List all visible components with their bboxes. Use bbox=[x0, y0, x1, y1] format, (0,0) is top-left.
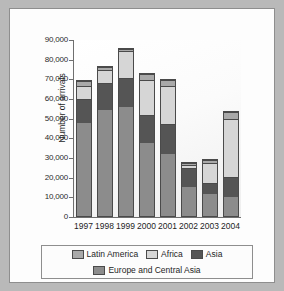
legend-item[interactable]: Africa bbox=[146, 249, 183, 259]
y-tick-mark bbox=[69, 138, 73, 139]
bar-segment bbox=[224, 112, 238, 119]
y-axis-tick-labels: 90,00080,00070,00060,00050,00040,00030,0… bbox=[8, 40, 68, 218]
x-axis-line bbox=[73, 217, 241, 218]
x-axis-tick-labels: 19971998199920002001200220032004 bbox=[73, 221, 241, 235]
x-tick-label-2004: 2004 bbox=[216, 221, 246, 231]
bar-segment bbox=[161, 154, 175, 216]
bar-2001[interactable] bbox=[160, 79, 176, 217]
plot-area bbox=[73, 40, 241, 218]
bar-segment bbox=[119, 107, 133, 216]
legend-swatch-icon bbox=[191, 250, 203, 259]
y-tick-mark bbox=[69, 217, 73, 218]
bar-1997[interactable] bbox=[76, 80, 92, 217]
bar-segment bbox=[140, 143, 154, 216]
legend-swatch-icon bbox=[93, 266, 105, 275]
bar-segment bbox=[140, 115, 154, 144]
bar-2000[interactable] bbox=[139, 73, 155, 217]
legend-item[interactable]: Europe and Central Asia bbox=[93, 265, 200, 275]
y-tick-label: 50,000 bbox=[45, 115, 68, 123]
bar-segment bbox=[98, 110, 112, 216]
bar-1999[interactable] bbox=[118, 48, 134, 217]
y-tick-mark bbox=[69, 79, 73, 80]
y-tick-label: 30,000 bbox=[45, 154, 68, 162]
bar-segment bbox=[203, 194, 217, 216]
chart-frame: Number of arrivals 90,00080,00070,00060,… bbox=[9, 8, 275, 283]
bar-2004[interactable] bbox=[223, 111, 239, 217]
legend-label: Latin America bbox=[87, 249, 139, 259]
bar-segment bbox=[182, 187, 196, 217]
legend-swatch-icon bbox=[146, 250, 158, 259]
legend-row: Latin AmericaAfricaAsia bbox=[42, 246, 252, 262]
y-tick-mark bbox=[69, 40, 73, 41]
y-tick-mark bbox=[69, 99, 73, 100]
y-tick-label: 70,000 bbox=[45, 75, 68, 83]
y-tick-label: 90,000 bbox=[45, 36, 68, 44]
legend-row: Europe and Central Asia bbox=[42, 262, 252, 278]
legend-label: Africa bbox=[161, 249, 183, 259]
legend-item[interactable]: Asia bbox=[191, 249, 223, 259]
y-tick-mark bbox=[69, 197, 73, 198]
bar-segment bbox=[98, 83, 112, 110]
y-axis-line bbox=[73, 40, 74, 218]
y-tick-label: 0 bbox=[64, 213, 68, 221]
chart-legend: Latin AmericaAfricaAsiaEurope and Centra… bbox=[41, 245, 253, 279]
bar-segment bbox=[224, 119, 238, 177]
bar-segment bbox=[161, 124, 175, 154]
legend-item[interactable]: Latin America bbox=[72, 249, 139, 259]
bar-segment bbox=[182, 168, 196, 187]
bar-segment bbox=[203, 183, 217, 195]
bar-segment bbox=[98, 70, 112, 84]
legend-label: Europe and Central Asia bbox=[108, 265, 200, 275]
bar-segment bbox=[77, 86, 91, 99]
y-tick-label: 80,000 bbox=[45, 56, 68, 64]
bar-segment bbox=[224, 197, 238, 216]
bar-segment bbox=[119, 51, 133, 79]
y-tick-label: 40,000 bbox=[45, 134, 68, 142]
legend-label: Asia bbox=[206, 249, 223, 259]
bar-segment bbox=[77, 123, 91, 216]
bar-segment bbox=[140, 80, 154, 114]
legend-swatch-icon bbox=[72, 250, 84, 259]
bar-segment bbox=[161, 86, 175, 123]
bar-segment bbox=[203, 163, 217, 183]
y-tick-label: 20,000 bbox=[45, 174, 68, 182]
bar-1998[interactable] bbox=[97, 66, 113, 217]
y-tick-label: 60,000 bbox=[45, 95, 68, 103]
bar-segment bbox=[77, 99, 91, 123]
y-tick-mark bbox=[69, 158, 73, 159]
y-tick-label: 10,000 bbox=[45, 193, 68, 201]
y-tick-mark bbox=[69, 119, 73, 120]
y-tick-mark bbox=[69, 178, 73, 179]
y-tick-mark bbox=[69, 60, 73, 61]
bar-segment bbox=[119, 78, 133, 107]
bar-2003[interactable] bbox=[202, 159, 218, 217]
bar-segment bbox=[224, 177, 238, 198]
bar-2002[interactable] bbox=[181, 162, 197, 217]
